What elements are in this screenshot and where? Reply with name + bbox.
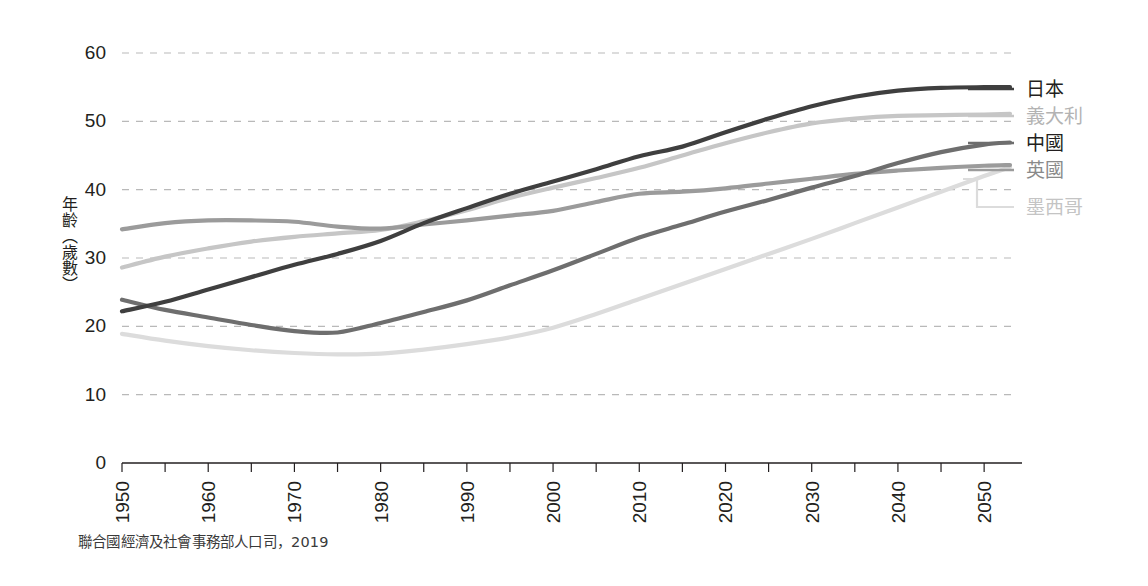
series-line-日本 bbox=[122, 87, 1010, 311]
legend-label-英國: 英國 bbox=[1026, 159, 1064, 181]
series-line-義大利 bbox=[122, 114, 1010, 268]
gridlines bbox=[122, 53, 1018, 395]
data-series-group bbox=[122, 87, 1010, 354]
x-tick-label-2010: 2010 bbox=[629, 481, 650, 523]
y-tick-label-0: 0 bbox=[95, 452, 106, 473]
legend-item-墨西哥[interactable]: 墨西哥 bbox=[963, 179, 1083, 218]
x-tick-label-2030: 2030 bbox=[802, 481, 823, 523]
y-axis-title: 年齡（歲數） bbox=[52, 196, 76, 292]
x-axis bbox=[122, 463, 1022, 472]
x-tick-label-2040: 2040 bbox=[888, 481, 909, 523]
series-line-中國 bbox=[122, 143, 1010, 334]
y-tick-label-50: 50 bbox=[85, 110, 106, 131]
legend-label-中國: 中國 bbox=[1026, 132, 1064, 154]
y-tick-label-40: 40 bbox=[85, 179, 106, 200]
y-tick-label-30: 30 bbox=[85, 247, 106, 268]
legend-label-義大利: 義大利 bbox=[1026, 105, 1083, 127]
legend-label-墨西哥: 墨西哥 bbox=[1026, 196, 1083, 218]
series-line-英國 bbox=[122, 165, 1010, 229]
x-tick-label-2000: 2000 bbox=[543, 481, 564, 523]
legend-label-日本: 日本 bbox=[1026, 78, 1064, 100]
legend-connector-elbow bbox=[963, 179, 1014, 207]
chart-container: 0102030405060 19501960197019801990200020… bbox=[0, 0, 1148, 586]
x-tick-label-2050: 2050 bbox=[974, 481, 995, 523]
x-tick-label-1980: 1980 bbox=[371, 481, 392, 523]
x-tick-label-1990: 1990 bbox=[457, 481, 478, 523]
y-axis-tick-labels: 0102030405060 bbox=[85, 42, 106, 473]
line-chart: 0102030405060 19501960197019801990200020… bbox=[0, 0, 1148, 586]
legend-item-日本[interactable]: 日本 bbox=[968, 78, 1064, 100]
x-tick-label-2020: 2020 bbox=[715, 481, 736, 523]
y-tick-label-60: 60 bbox=[85, 42, 106, 63]
y-tick-label-20: 20 bbox=[85, 315, 106, 336]
x-tick-label-1950: 1950 bbox=[112, 481, 133, 523]
legend-item-中國[interactable]: 中國 bbox=[968, 132, 1064, 154]
x-tick-label-1970: 1970 bbox=[284, 481, 305, 523]
y-tick-label-10: 10 bbox=[85, 384, 106, 405]
x-tick-label-1960: 1960 bbox=[198, 481, 219, 523]
legend: 日本義大利中國英國墨西哥 bbox=[963, 78, 1083, 218]
x-axis-tick-labels: 1950196019701980199020002010202020302040… bbox=[112, 481, 995, 523]
legend-item-義大利[interactable]: 義大利 bbox=[968, 105, 1083, 127]
source-note: 聯合國經濟及社會事務部人口司，2019 bbox=[78, 530, 329, 551]
